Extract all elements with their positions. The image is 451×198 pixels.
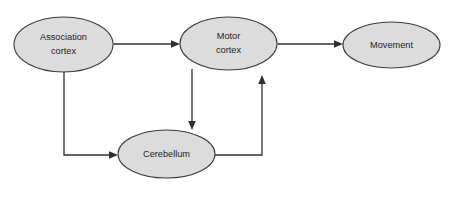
node-label-line-1: Association: [40, 32, 87, 42]
arrowhead-icon: [334, 40, 343, 48]
edge-association-cortex-to-cerebellum: [64, 72, 118, 159]
node-association-cortex[interactable]: Association cortex: [14, 17, 113, 72]
edge-line: [215, 79, 262, 155]
edge-motor-cortex-to-movement: [278, 40, 344, 48]
node-label-line-1: Cerebellum: [143, 149, 190, 159]
node-shape: [180, 17, 277, 70]
edge-line: [64, 72, 114, 155]
edge-motor-cortex-to-cerebellum: [188, 69, 196, 130]
edge-association-cortex-to-motor-cortex: [114, 40, 181, 48]
motor-control-diagram: Association cortex Motor cortex Movement…: [0, 0, 451, 198]
arrowhead-icon: [109, 151, 118, 159]
edge-cerebellum-to-motor-cortex: [215, 75, 266, 155]
diagram-canvas: Association cortex Motor cortex Movement…: [0, 0, 451, 198]
arrowhead-icon: [258, 75, 266, 84]
node-movement[interactable]: Movement: [343, 22, 440, 68]
node-cerebellum[interactable]: Cerebellum: [118, 130, 215, 178]
node-motor-cortex[interactable]: Motor cortex: [180, 17, 277, 70]
arrowhead-icon: [171, 40, 180, 48]
node-label-line-1: Motor: [217, 31, 241, 41]
node-label-line-2: cortex: [51, 46, 76, 56]
node-label-line-2: cortex: [216, 45, 241, 55]
arrowhead-icon: [188, 121, 196, 130]
node-shape: [14, 17, 113, 72]
node-label-line-1: Movement: [370, 40, 413, 50]
